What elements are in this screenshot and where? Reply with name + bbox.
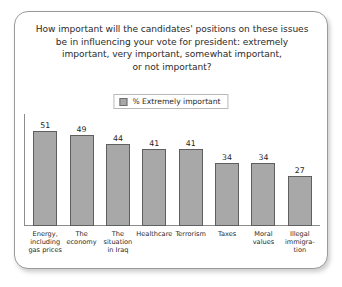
bar-group: 34Moralvalues — [245, 80, 281, 260]
chart-title: How important will the candidates' posit… — [23, 23, 321, 73]
bar-group: 41Healthcare — [136, 80, 172, 260]
bar-value-label: 41 — [149, 139, 159, 148]
chart-title-line-3: important, very important, somewhat impo… — [23, 48, 321, 61]
bar-value-label: 34 — [222, 153, 232, 162]
bar-rect[interactable] — [70, 135, 94, 226]
bar-rect[interactable] — [251, 163, 275, 226]
chart-panel: How important will the candidates' posit… — [14, 11, 328, 269]
bar-group: 49Theeconomy — [63, 80, 99, 260]
bar-group: 41Terrorism — [173, 80, 209, 260]
y-axis-line — [24, 114, 25, 226]
bar-rect[interactable] — [179, 149, 203, 226]
chart-title-line-1: How important will the candidates' posit… — [23, 23, 321, 36]
bar-rect[interactable] — [288, 176, 312, 226]
bar-group: 27Illegalimmigra-tion — [282, 80, 318, 260]
bar-rect[interactable] — [215, 163, 239, 226]
x-axis-category-label: Illegalimmigra-tion — [279, 229, 321, 260]
plot-area: 51Energy,includinggas prices49Theeconomy… — [24, 114, 320, 260]
bar-value-label: 34 — [258, 153, 268, 162]
bar-value-label: 27 — [295, 166, 305, 175]
bar-rect[interactable] — [33, 131, 57, 226]
chart-title-line-2: be in influencing your vote for presiden… — [23, 36, 321, 49]
bar-group: 34Taxes — [209, 80, 245, 260]
bar-value-label: 51 — [40, 121, 50, 130]
bar-group: 51Energy,includinggas prices — [27, 80, 63, 260]
bar-group: 44Thesituationin Iraq — [100, 80, 136, 260]
bar-value-label: 44 — [113, 134, 123, 143]
bar-rect[interactable] — [142, 149, 166, 226]
bar-value-label: 49 — [77, 125, 87, 134]
bar-series: 51Energy,includinggas prices49Theeconomy… — [27, 114, 318, 260]
bar-rect[interactable] — [106, 144, 130, 226]
chart-title-line-4: or not important? — [23, 61, 321, 74]
bar-value-label: 41 — [186, 139, 196, 148]
